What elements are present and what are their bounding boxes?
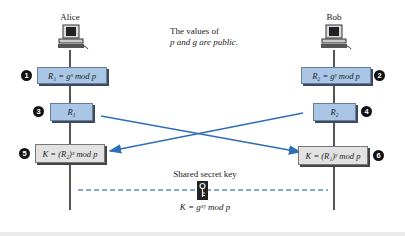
step-4-badge: 4	[361, 106, 372, 117]
step-4-box: R₂	[313, 103, 356, 121]
step-2-box: R₂ = gʸ mod p	[301, 67, 371, 84]
step-1-box: R₁ = gˣ mod p	[37, 67, 107, 84]
shared-key-label: Shared secret key	[150, 169, 260, 179]
step-6-box: K = (R₁)ʸ mod p	[298, 146, 368, 165]
step-2-badge: 2	[374, 70, 385, 81]
step-5-badge: 5	[19, 148, 30, 159]
key-icon	[197, 181, 208, 200]
step-1-badge: 1	[21, 70, 32, 81]
step-6-badge: 6	[373, 150, 384, 161]
step-3-box: R₁	[50, 103, 93, 121]
step-5-box: K = (R₂)ˣ mod p	[35, 144, 105, 163]
bottom-band	[0, 232, 405, 236]
step-3-badge: 3	[33, 106, 44, 117]
shared-key-formula: K = gˣʸ mod p	[150, 202, 260, 212]
